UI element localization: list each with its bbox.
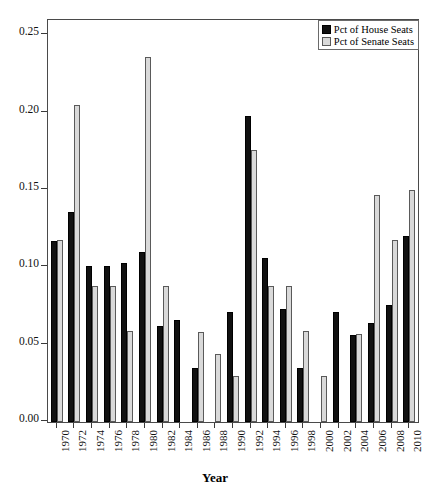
x-tick-label: 1982 [166, 430, 177, 452]
x-tick-label: 1974 [95, 430, 106, 452]
x-tick-label: 2008 [395, 430, 406, 452]
x-tick-mark [232, 423, 233, 428]
x-tick-label: 1978 [130, 430, 141, 452]
legend-item-senate: Pct of Senate Seats [322, 35, 414, 47]
legend-label-senate: Pct of Senate Seats [334, 36, 414, 47]
bar-senate-1974 [92, 286, 98, 422]
bar-senate-1998 [303, 331, 309, 422]
x-tick-label: 2010 [412, 430, 423, 452]
x-tick-mark [73, 423, 74, 428]
x-tick-mark [285, 423, 286, 428]
chart-legend: Pct of House Seats Pct of Senate Seats [318, 20, 419, 50]
bar-senate-1978 [127, 331, 133, 422]
y-tick-label: 0.00 [19, 413, 39, 425]
y-tick-label: 0.10 [19, 258, 39, 270]
y-tick-label: 0.20 [19, 104, 39, 116]
x-axis-title: Year [0, 470, 430, 486]
bar-senate-1994 [268, 286, 274, 422]
x-tick-mark [91, 423, 92, 428]
bar-senate-1982 [163, 286, 169, 422]
x-tick-label: 1996 [289, 430, 300, 452]
x-tick-mark [320, 423, 321, 428]
bar-senate-2004 [356, 334, 362, 422]
bar-senate-1990 [233, 376, 239, 422]
bar-chart: 0.000.050.100.150.200.25 197019721974197… [0, 0, 430, 493]
y-tick-mark [41, 343, 47, 344]
x-tick-mark [250, 423, 251, 428]
x-tick-mark [56, 423, 57, 428]
x-tick-label: 1990 [236, 430, 247, 452]
bar-house-2002 [333, 312, 339, 422]
bar-senate-2008 [392, 240, 398, 422]
legend-swatch-senate-icon [322, 37, 331, 46]
x-tick-mark [214, 423, 215, 428]
x-tick-mark [408, 423, 409, 428]
x-tick-label: 2004 [359, 430, 370, 452]
x-tick-mark [144, 423, 145, 428]
x-tick-mark [126, 423, 127, 428]
x-tick-label: 1984 [183, 430, 194, 452]
x-tick-mark [302, 423, 303, 428]
x-tick-label: 2002 [342, 430, 353, 452]
x-tick-label: 1970 [60, 430, 71, 452]
legend-swatch-house-icon [322, 25, 331, 34]
x-tick-mark [391, 423, 392, 428]
y-tick-mark [41, 33, 47, 34]
x-tick-label: 1998 [306, 430, 317, 452]
x-tick-label: 1988 [218, 430, 229, 452]
bar-senate-1972 [74, 105, 80, 422]
x-tick-label: 1992 [254, 430, 265, 452]
x-tick-label: 2000 [324, 430, 335, 452]
x-tick-mark [373, 423, 374, 428]
bar-senate-2010 [409, 190, 415, 422]
bar-senate-1976 [110, 286, 116, 422]
y-tick-mark [41, 188, 47, 189]
bar-senate-2006 [374, 195, 380, 422]
x-tick-mark [109, 423, 110, 428]
x-tick-mark [162, 423, 163, 428]
x-tick-mark [355, 423, 356, 428]
x-tick-label: 1972 [77, 430, 88, 452]
x-tick-mark [338, 423, 339, 428]
x-tick-label: 1980 [148, 430, 159, 452]
bar-senate-1970 [57, 240, 63, 422]
y-tick-mark [41, 111, 47, 112]
bar-senate-1992 [251, 150, 257, 422]
legend-label-house: Pct of House Seats [334, 24, 413, 35]
bar-senate-2000 [321, 376, 327, 422]
plot-frame [47, 19, 419, 423]
x-tick-label: 1986 [201, 430, 212, 452]
legend-item-house: Pct of House Seats [322, 23, 414, 35]
y-tick-mark [41, 265, 47, 266]
y-tick-label: 0.25 [19, 26, 39, 38]
x-tick-label: 2006 [377, 430, 388, 452]
bar-house-1984 [174, 320, 180, 422]
bar-senate-1996 [286, 286, 292, 422]
bar-senate-1988 [215, 354, 221, 422]
x-tick-label: 1976 [113, 430, 124, 452]
y-tick-mark [41, 420, 47, 421]
x-tick-mark [267, 423, 268, 428]
y-tick-label: 0.05 [19, 336, 39, 348]
x-tick-mark [197, 423, 198, 428]
bar-senate-1986 [198, 332, 204, 422]
y-tick-label: 0.15 [19, 181, 39, 193]
x-tick-label: 1994 [271, 430, 282, 452]
bar-senate-1980 [145, 57, 151, 422]
x-tick-mark [179, 423, 180, 428]
plot-area [48, 20, 418, 422]
